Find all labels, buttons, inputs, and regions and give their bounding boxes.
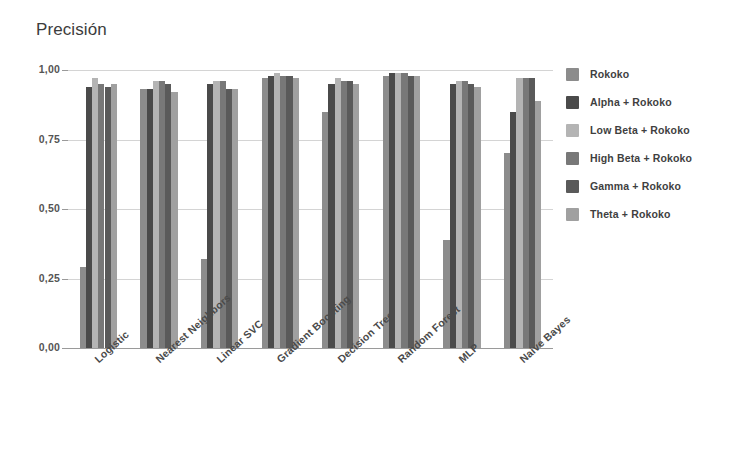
legend-label: Gamma + Rokoko — [590, 180, 681, 192]
bar — [353, 84, 359, 348]
legend-swatch-icon — [566, 68, 579, 81]
bar-group — [383, 70, 420, 348]
y-tick-label: 0,75 — [26, 133, 60, 145]
legend-item[interactable]: Theta + Rokoko — [566, 200, 736, 228]
bar-group — [504, 70, 541, 348]
plot-area — [68, 70, 553, 348]
legend-item[interactable]: Low Beta + Rokoko — [566, 116, 736, 144]
legend-label: Theta + Rokoko — [590, 208, 671, 220]
bar — [474, 87, 480, 348]
legend-item[interactable]: Gamma + Rokoko — [566, 172, 736, 200]
y-tick-label: 0,25 — [26, 272, 60, 284]
bar-group — [262, 70, 299, 348]
precision-bar-chart: Precisión 1,000,750,500,250,00 LogisticN… — [0, 0, 739, 470]
y-tick-label: 0,50 — [26, 202, 60, 214]
bar — [535, 101, 541, 348]
bar — [293, 78, 299, 348]
legend-swatch-icon — [566, 124, 579, 137]
y-tick-label: 1,00 — [26, 63, 60, 75]
legend-swatch-icon — [566, 180, 579, 193]
bar-group — [140, 70, 177, 348]
legend-label: High Beta + Rokoko — [590, 152, 692, 164]
y-tick-label: 0,00 — [26, 341, 60, 353]
legend-label: Rokoko — [590, 68, 629, 80]
chart-title: Precisión — [36, 20, 107, 40]
legend-item[interactable]: High Beta + Rokoko — [566, 144, 736, 172]
chart-legend: RokokoAlpha + RokokoLow Beta + RokokoHig… — [566, 60, 736, 228]
bar — [414, 76, 420, 348]
legend-item[interactable]: Alpha + Rokoko — [566, 88, 736, 116]
legend-swatch-icon — [566, 152, 579, 165]
legend-label: Low Beta + Rokoko — [590, 124, 690, 136]
bar — [111, 84, 117, 348]
legend-swatch-icon — [566, 208, 579, 221]
bar — [171, 92, 177, 348]
legend-swatch-icon — [566, 96, 579, 109]
bar-group — [80, 70, 117, 348]
bar — [232, 89, 238, 348]
legend-item[interactable]: Rokoko — [566, 60, 736, 88]
legend-label: Alpha + Rokoko — [590, 96, 672, 108]
